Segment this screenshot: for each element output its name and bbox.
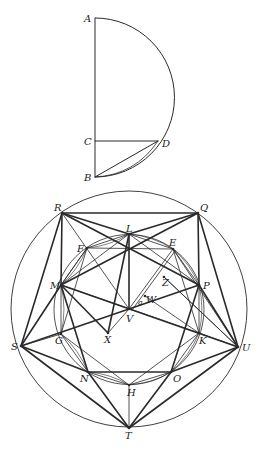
point-label-K: K bbox=[198, 335, 207, 346]
point-S bbox=[20, 345, 23, 348]
point-E bbox=[172, 248, 175, 251]
point-label-Q: Q bbox=[200, 202, 208, 213]
point-label-G: G bbox=[55, 335, 63, 346]
point-label-F: F bbox=[76, 243, 85, 254]
semicircle-arc bbox=[95, 18, 174, 177]
point-P bbox=[198, 284, 201, 287]
segment-GH bbox=[61, 334, 129, 385]
segment-QP bbox=[198, 213, 199, 285]
point-K bbox=[198, 332, 201, 335]
segment-OH bbox=[129, 372, 171, 385]
point-label-V: V bbox=[126, 313, 135, 324]
segment-EP bbox=[173, 249, 199, 285]
point-label-M: M bbox=[49, 280, 61, 291]
segment-KH bbox=[129, 333, 199, 385]
point-T bbox=[128, 427, 131, 430]
point-label-D: D bbox=[161, 138, 170, 149]
segment-LF bbox=[87, 234, 129, 248]
point-label-B: B bbox=[83, 172, 91, 183]
point-label-N: N bbox=[79, 373, 90, 384]
point-label-H: H bbox=[126, 387, 136, 398]
semicircle-figure: ACDB bbox=[83, 13, 174, 183]
point-O bbox=[170, 371, 173, 374]
point-label-C: C bbox=[84, 136, 92, 147]
point-label-A: A bbox=[83, 13, 91, 24]
geometry-figure: ACDB RQLEFZMPWVXSGKUNOHTa bbox=[0, 0, 266, 455]
point-V bbox=[128, 308, 131, 311]
segment-LM bbox=[61, 234, 129, 285]
point-label-L: L bbox=[125, 223, 133, 234]
point-U bbox=[237, 346, 240, 349]
segment-EK bbox=[173, 249, 199, 333]
point-label-R: R bbox=[53, 202, 62, 213]
segment-BD bbox=[95, 141, 158, 177]
pentagon-star-figure: RQLEFZMPWVXSGKUNOHTa bbox=[11, 191, 251, 441]
point-label-Z: Z bbox=[161, 277, 170, 288]
geometry-canvas: ACDB RQLEFZMPWVXSGKUNOHTa bbox=[0, 0, 266, 455]
point-label-U: U bbox=[242, 342, 251, 353]
point-label-a: a bbox=[138, 298, 143, 307]
segment-SN bbox=[21, 346, 88, 372]
point-label-O: O bbox=[173, 373, 181, 384]
point-label-P: P bbox=[202, 280, 210, 291]
segment-ST bbox=[21, 346, 129, 428]
point-label-W: W bbox=[146, 294, 157, 305]
point-label-S: S bbox=[11, 341, 18, 352]
segment-NH bbox=[88, 372, 129, 385]
point-label-T: T bbox=[125, 430, 133, 441]
point-label-E: E bbox=[168, 237, 177, 248]
segment-RM bbox=[61, 213, 62, 285]
point-F bbox=[86, 247, 89, 250]
segment-UO bbox=[171, 347, 238, 372]
segment-LE bbox=[129, 234, 173, 249]
point-H bbox=[128, 384, 131, 387]
segment-FG bbox=[61, 248, 87, 334]
point-label-X: X bbox=[103, 334, 112, 345]
point-Q bbox=[197, 212, 200, 215]
